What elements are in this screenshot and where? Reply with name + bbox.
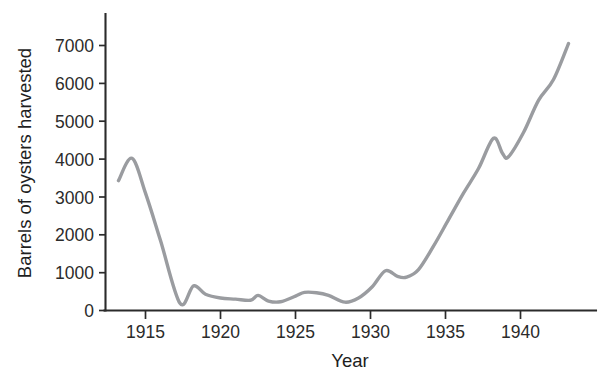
y-tick-labels: 7000 6000 5000 4000 3000 2000 1000 0 [55,36,94,321]
y-tick-label-1000: 1000 [55,263,94,283]
y-tick-label-5000: 5000 [55,112,94,132]
x-tick-marks [146,311,521,319]
y-tick-label-4000: 4000 [55,150,94,170]
y-tick-label-6000: 6000 [55,74,94,94]
x-tick-label-1925: 1925 [276,322,315,342]
x-tick-label-1920: 1920 [201,322,240,342]
y-tick-label-3000: 3000 [55,188,94,208]
y-axis-title: Barrels of oysters harvested [14,48,35,278]
y-tick-label-2000: 2000 [55,225,94,245]
y-tick-label-7000: 7000 [55,36,94,56]
x-tick-label-1940: 1940 [501,322,540,342]
x-tick-label-1935: 1935 [426,322,465,342]
x-axis-title: Year [331,350,368,371]
x-tick-label-1930: 1930 [351,322,390,342]
chart-figure: 7000 6000 5000 4000 3000 2000 1000 0 191… [0,0,609,378]
x-tick-label-1915: 1915 [126,322,165,342]
line-chart: 7000 6000 5000 4000 3000 2000 1000 0 191… [0,0,609,378]
data-series-line [119,44,569,305]
x-tick-labels: 1915 1920 1925 1930 1935 1940 [126,322,540,342]
y-tick-label-0: 0 [84,301,94,321]
y-tick-marks [99,46,105,311]
